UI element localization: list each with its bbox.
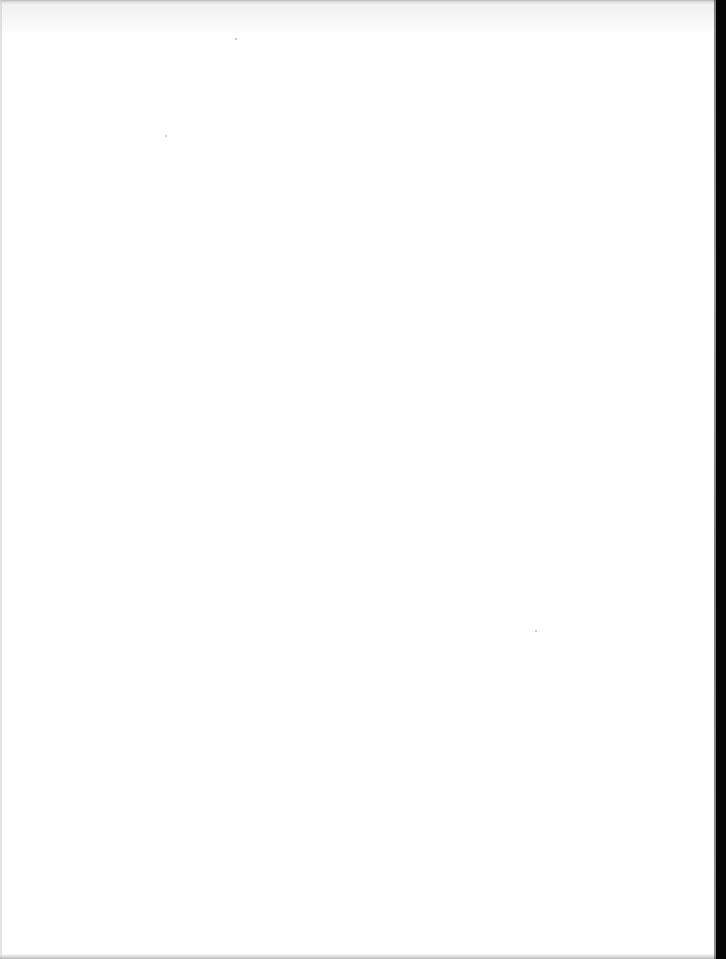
scan-top-shadow (0, 6, 716, 36)
scan-speck (235, 38, 237, 40)
scan-bottom-edge (0, 954, 716, 959)
scan-speck (535, 630, 537, 632)
scan-speck (165, 135, 167, 137)
blank-scanned-page (0, 0, 716, 959)
scan-right-border (716, 0, 726, 959)
scan-left-edge (0, 0, 2, 959)
